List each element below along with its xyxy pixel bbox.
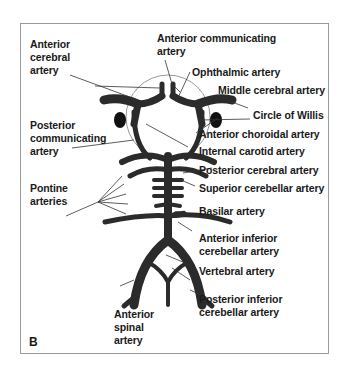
label-posterior-communicating-artery: Posterior communicating artery [30, 119, 106, 158]
label-line: Posterior inferior [199, 293, 282, 306]
label-line: artery [114, 334, 154, 347]
label-circle-of-willis: Circle of Willis [253, 109, 324, 122]
label-line: cerebellar artery [199, 245, 279, 258]
label-line: spinal [114, 321, 154, 334]
label-line: Anterior [114, 308, 154, 321]
label-pontine-arteries: Pontine arteries [30, 182, 68, 208]
label-line: cerebellar artery [199, 306, 282, 319]
label-line: artery [30, 64, 70, 77]
label-superior-cerebellar-artery: Superior cerebellar artery [199, 182, 324, 195]
label-posterior-cerebral-artery: Posterior cerebral artery [199, 164, 318, 177]
label-line: Anterior inferior [199, 232, 279, 245]
label-line: artery [157, 45, 276, 58]
label-line: artery [30, 145, 106, 158]
label-posterior-inferior-cerebellar-artery: Posterior inferior cerebellar artery [199, 293, 282, 319]
label-ophthalmic-artery: Ophthalmic artery [192, 66, 280, 79]
label-anterior-choroidal-artery: Anterior choroidal artery [199, 128, 320, 141]
label-line: Anterior communicating [157, 32, 276, 45]
label-anterior-communicating-artery: Anterior communicating artery [157, 32, 276, 58]
label-vertebral-artery: Vertebral artery [199, 265, 274, 278]
label-middle-cerebral-artery: Middle cerebral artery [218, 84, 325, 97]
label-line: Posterior [30, 119, 106, 132]
label-basilar-artery: Basilar artery [199, 205, 265, 218]
label-line: Anterior [30, 38, 70, 51]
label-line: communicating [30, 132, 106, 145]
label-anterior-inferior-cerebellar-artery: Anterior inferior cerebellar artery [199, 232, 279, 258]
panel-label: B [29, 335, 38, 349]
label-line: Pontine [30, 182, 68, 195]
label-anterior-spinal-artery: Anterior spinal artery [114, 308, 154, 347]
label-internal-carotid-artery: Internal carotid artery [199, 145, 305, 158]
label-line: cerebral [30, 51, 70, 64]
label-line: arteries [30, 195, 68, 208]
label-anterior-cerebral-artery: Anterior cerebral artery [30, 38, 70, 77]
